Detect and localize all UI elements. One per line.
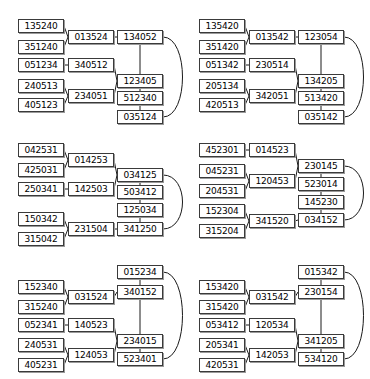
node-031542[interactable]: 031542 — [249, 290, 295, 304]
node-123405[interactable]: 123405 — [117, 74, 163, 88]
panel-middle-right: 4523010145230452312045311204532301455230… — [185, 126, 370, 252]
node-315240[interactable]: 315240 — [18, 300, 64, 314]
node-140523[interactable]: 140523 — [68, 318, 114, 332]
node-240513[interactable]: 240513 — [18, 79, 64, 93]
node-230514[interactable]: 230514 — [249, 58, 295, 72]
node-523014[interactable]: 523014 — [298, 177, 344, 191]
node-152304[interactable]: 152304 — [199, 204, 245, 218]
node-134052[interactable]: 134052 — [117, 30, 163, 44]
panel-grid: 1352403512400135241340520512343405122405… — [0, 0, 370, 379]
node-205134[interactable]: 205134 — [199, 79, 245, 93]
edge-123054-035142 — [344, 37, 364, 117]
edge-034125-341250 — [163, 175, 183, 229]
node-341250[interactable]: 341250 — [117, 222, 163, 236]
panel-top-right: 1354203514200135421230540513422305142051… — [185, 0, 370, 126]
node-204531[interactable]: 204531 — [199, 184, 245, 198]
node-342051[interactable]: 342051 — [249, 89, 295, 103]
node-425031[interactable]: 425031 — [18, 163, 64, 177]
node-340512[interactable]: 340512 — [68, 58, 114, 72]
edge-015234-523401 — [163, 272, 183, 359]
node-035124[interactable]: 035124 — [117, 110, 163, 124]
node-120453[interactable]: 120453 — [249, 174, 295, 188]
node-234051[interactable]: 234051 — [68, 89, 114, 103]
node-351420[interactable]: 351420 — [199, 40, 245, 54]
node-512340[interactable]: 512340 — [117, 91, 163, 105]
node-230154[interactable]: 230154 — [298, 285, 344, 299]
node-150342[interactable]: 150342 — [18, 212, 64, 226]
node-013524[interactable]: 013524 — [68, 30, 114, 44]
node-452301[interactable]: 452301 — [199, 143, 245, 157]
edge-015342-534120 — [344, 272, 364, 359]
node-051234[interactable]: 051234 — [18, 58, 64, 72]
node-042531[interactable]: 042531 — [18, 143, 64, 157]
node-142053[interactable]: 142053 — [249, 348, 295, 362]
node-142503[interactable]: 142503 — [68, 182, 114, 196]
node-405231[interactable]: 405231 — [18, 358, 64, 372]
node-035142[interactable]: 035142 — [298, 110, 344, 124]
node-135420[interactable]: 135420 — [199, 19, 245, 33]
node-120534[interactable]: 120534 — [249, 318, 295, 332]
node-230145[interactable]: 230145 — [298, 159, 344, 173]
node-123054[interactable]: 123054 — [298, 30, 344, 44]
node-052341[interactable]: 052341 — [18, 318, 64, 332]
node-315204[interactable]: 315204 — [199, 224, 245, 238]
node-153420[interactable]: 153420 — [199, 280, 245, 294]
node-420513[interactable]: 420513 — [199, 98, 245, 112]
node-014253[interactable]: 014253 — [68, 153, 114, 167]
node-240531[interactable]: 240531 — [18, 338, 64, 352]
node-045231[interactable]: 045231 — [199, 164, 245, 178]
node-340152[interactable]: 340152 — [117, 285, 163, 299]
panel-top-left: 1352403512400135241340520512343405122405… — [0, 0, 185, 126]
node-053412[interactable]: 053412 — [199, 318, 245, 332]
node-013542[interactable]: 013542 — [249, 30, 295, 44]
node-405123[interactable]: 405123 — [18, 98, 64, 112]
node-523401[interactable]: 523401 — [117, 352, 163, 366]
node-234015[interactable]: 234015 — [117, 334, 163, 348]
node-420531[interactable]: 420531 — [199, 358, 245, 372]
node-315042[interactable]: 315042 — [18, 232, 64, 246]
node-315420[interactable]: 315420 — [199, 300, 245, 314]
node-205341[interactable]: 205341 — [199, 338, 245, 352]
node-134205[interactable]: 134205 — [298, 74, 344, 88]
node-034125[interactable]: 034125 — [117, 168, 163, 182]
node-341520[interactable]: 341520 — [249, 214, 295, 228]
edge-230145-034152 — [344, 166, 364, 220]
panel-bottom-left: 0152341523403152400315243401520523411405… — [0, 252, 185, 378]
node-051342[interactable]: 051342 — [199, 58, 245, 72]
node-341205[interactable]: 341205 — [298, 334, 344, 348]
node-231504[interactable]: 231504 — [68, 222, 114, 236]
node-534120[interactable]: 534120 — [298, 352, 344, 366]
node-031524[interactable]: 031524 — [68, 290, 114, 304]
node-124053[interactable]: 124053 — [68, 348, 114, 362]
node-152340[interactable]: 152340 — [18, 280, 64, 294]
node-014523[interactable]: 014523 — [249, 143, 295, 157]
node-250341[interactable]: 250341 — [18, 182, 64, 196]
node-015234[interactable]: 015234 — [117, 265, 163, 279]
node-351240[interactable]: 351240 — [18, 40, 64, 54]
node-125034[interactable]: 125034 — [117, 203, 163, 217]
node-513420[interactable]: 513420 — [298, 91, 344, 105]
edge-134052-035124 — [163, 37, 183, 117]
node-034152[interactable]: 034152 — [298, 213, 344, 227]
panel-middle-left: 0425314250310142532503411425030341255034… — [0, 126, 185, 252]
node-135240[interactable]: 135240 — [18, 19, 64, 33]
node-503412[interactable]: 503412 — [117, 185, 163, 199]
panel-bottom-right: 0153421534203154200315422301540534121205… — [185, 252, 370, 378]
node-145230[interactable]: 145230 — [298, 195, 344, 209]
node-015342[interactable]: 015342 — [298, 265, 344, 279]
